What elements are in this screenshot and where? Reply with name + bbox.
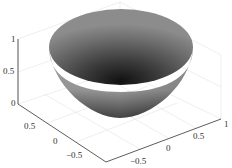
bowl-inner-surface — [49, 9, 193, 85]
y-axis — [18, 104, 106, 162]
z-tick-0: 0 — [11, 99, 16, 108]
z-tick-0.5: 0.5 — [3, 67, 14, 76]
x-tick-0: 0 — [166, 144, 171, 153]
y-tick-neg0.5: −0.5 — [66, 151, 82, 160]
y-tick-0: 0 — [53, 137, 58, 146]
x-tick-0.5: 0.5 — [193, 132, 204, 141]
y-tick-0.5: 0.5 — [24, 122, 35, 131]
plot-canvas — [0, 0, 232, 168]
x-tick-neg0.5: −0.5 — [130, 157, 146, 166]
z-tick-1: 1 — [11, 35, 16, 44]
surface-plot: 1 0.5 0 0.5 0 −0.5 −0.5 0 0.5 1 — [0, 0, 232, 168]
x-tick-1: 1 — [224, 120, 229, 129]
